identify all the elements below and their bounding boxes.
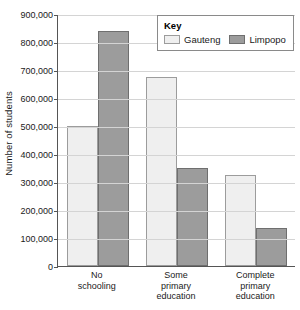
bar-limpopo-0 (98, 31, 129, 266)
bar-chart: Number of students 900,000800,000700,000… (0, 0, 300, 310)
y-axis-tick-label: 300,000 (20, 178, 53, 188)
gridline (58, 239, 295, 240)
legend-swatch-icon (229, 35, 245, 44)
y-axis-tickmark (54, 155, 58, 156)
x-axis-category-label: Completeprimaryeducation (216, 270, 295, 302)
bar-gauteng-2 (225, 175, 256, 266)
legend-title: Key (164, 20, 287, 31)
x-axis-category-label: Someprimaryeducation (136, 270, 215, 302)
bar-gauteng-1 (146, 77, 177, 266)
x-axis-category-label: Noschooling (57, 270, 136, 291)
y-axis-tickmark (54, 71, 58, 72)
y-axis-tick-labels: 900,000800,000700,000600,000500,000400,0… (14, 0, 56, 270)
y-axis-tick-label: 100,000 (20, 234, 53, 244)
y-axis-tick-label: 400,000 (20, 150, 53, 160)
y-axis-tickmark (54, 183, 58, 184)
gridline (58, 71, 295, 72)
legend-items: GautengLimpopo (164, 34, 287, 45)
legend-item-label: Gauteng (184, 34, 220, 45)
y-axis-tick-label: 900,000 (20, 10, 53, 20)
y-axis-tick-label: 700,000 (20, 66, 53, 76)
x-axis-category-labels: NoschoolingSomeprimaryeducationCompletep… (57, 270, 295, 310)
bars-layer (58, 15, 295, 266)
y-axis-tickmark (54, 99, 58, 100)
legend: Key GautengLimpopo (157, 15, 294, 51)
y-axis-tickmark (54, 127, 58, 128)
y-axis-tick-label: 0 (48, 262, 53, 272)
y-axis-tick-label: 200,000 (20, 206, 53, 216)
y-axis-tickmark (54, 211, 58, 212)
y-axis-tickmark (54, 267, 58, 268)
legend-item-label: Limpopo (249, 34, 285, 45)
y-axis-tick-label: 600,000 (20, 94, 53, 104)
y-axis-tickmark (54, 239, 58, 240)
gridline (58, 211, 295, 212)
y-axis-tickmark (54, 43, 58, 44)
gridline (58, 155, 295, 156)
y-axis-title-text: Number of students (3, 91, 14, 176)
y-axis-tickmark (54, 15, 58, 16)
bar-gauteng-0 (67, 126, 98, 266)
legend-item-limpopo: Limpopo (229, 34, 285, 45)
plot-area (57, 15, 295, 267)
gridline (58, 99, 295, 100)
y-axis-tick-label: 500,000 (20, 122, 53, 132)
y-axis-tick-label: 800,000 (20, 38, 53, 48)
legend-item-gauteng: Gauteng (164, 34, 220, 45)
gridline (58, 127, 295, 128)
bar-limpopo-2 (256, 228, 287, 266)
gridline (58, 183, 295, 184)
legend-swatch-icon (164, 35, 180, 44)
